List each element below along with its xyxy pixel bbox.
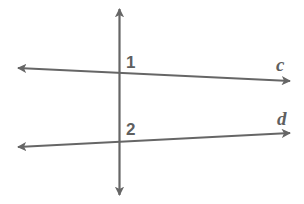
line-d bbox=[18, 133, 290, 147]
angle-1-label: 1 bbox=[126, 53, 135, 72]
transversal-diagram: 1 2 c d bbox=[0, 0, 304, 204]
line-c bbox=[18, 68, 290, 81]
line-d-label: d bbox=[277, 108, 287, 129]
line-c-label: c bbox=[276, 54, 285, 75]
angle-2-label: 2 bbox=[126, 120, 135, 139]
